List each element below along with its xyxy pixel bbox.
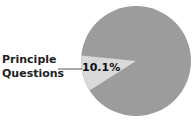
slice-percentage: 10.1% [82,61,120,74]
slice-label: Principle Questions [2,53,56,81]
slice-label-line1: Principle [2,53,56,67]
slice-label-line2: Questions [2,67,56,81]
